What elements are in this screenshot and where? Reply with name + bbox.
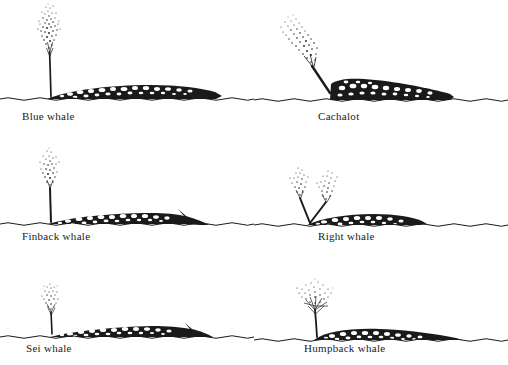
figure-caption-cachalot: Cachalot <box>318 110 360 122</box>
whale-body <box>50 323 213 337</box>
figure-cell-finback-whale <box>0 140 254 240</box>
spout-streaks <box>47 180 53 188</box>
whale-body <box>47 85 222 99</box>
spout-stipple-cloud <box>297 279 334 304</box>
spout-group <box>290 168 338 224</box>
figure-caption-blue-whale: Blue whale <box>22 110 75 122</box>
whale-figure <box>0 140 254 240</box>
spout-stalk <box>312 66 330 93</box>
whale-figure <box>254 140 508 240</box>
spout-stipple-cloud <box>42 284 59 310</box>
figure-caption-finback-whale: Finback whale <box>22 230 90 242</box>
spout-group <box>297 279 334 337</box>
spout-stipple-cloud <box>281 15 318 63</box>
spout-stipple-right <box>317 171 338 200</box>
spout-group <box>37 4 60 97</box>
spout-stalk <box>50 188 51 222</box>
whale-body <box>307 214 427 226</box>
body-silhouette <box>330 79 454 100</box>
figure-caption-humpback-whale: Humpback whale <box>304 342 385 354</box>
figure-cell-right-whale <box>254 140 508 240</box>
spout-group <box>40 148 60 222</box>
figure-cell-blue-whale <box>0 0 254 112</box>
whale-figure <box>0 0 254 112</box>
finback-whale-drawing <box>0 140 254 240</box>
whale-spout-plate: Blue whale <box>0 0 508 365</box>
spout-stalk <box>50 52 51 97</box>
figure-cell-cachalot <box>254 0 508 112</box>
spout-streaks <box>304 54 316 67</box>
cachalot-drawing <box>254 0 508 112</box>
spout-stipple-cloud <box>37 4 60 49</box>
spout-stipple-left <box>290 168 309 196</box>
spout-group <box>281 15 331 93</box>
figure-caption-right-whale: Right whale <box>318 230 375 242</box>
blue-whale-drawing <box>0 0 254 112</box>
whale-body <box>330 79 454 100</box>
right-whale-drawing <box>254 140 508 240</box>
whale-figure <box>254 0 508 112</box>
spout-stalk-left <box>300 198 310 223</box>
spout-group <box>42 284 59 335</box>
figure-caption-sei-whale: Sei whale <box>26 342 72 354</box>
spout-stipple-cloud <box>40 148 60 186</box>
spout-stalk <box>51 312 52 334</box>
